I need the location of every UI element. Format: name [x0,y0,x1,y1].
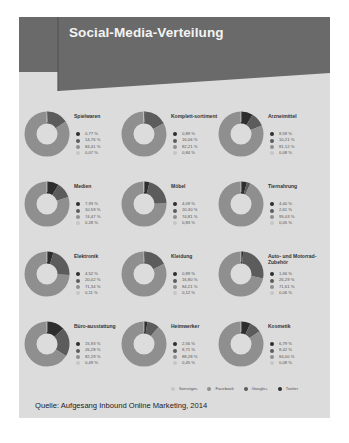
chart-legend: SonstigesFacebookGoogle+Twitter [171,386,298,391]
value-list: 4,52 %20,02 %71,34 %0,11 % [76,271,100,297]
series-dot-icon [270,285,274,289]
page-title: Social-Media-Verteilung [69,25,224,40]
donut-card: Spielwaren0,77 %14,76 %84,41 %0,07 % [24,111,124,181]
value-row: 0,84 % [173,150,197,156]
donut-chart [24,181,70,227]
value-label: 0,11 % [85,290,98,296]
series-dot-icon [270,139,274,143]
series-dot-icon [76,139,80,143]
series-dot-icon [270,145,274,149]
donut-card: Arzneimittel8,59 %10,21 %81,12 %0,08 % [218,111,318,181]
series-dot-icon [270,272,274,276]
series-dot-icon [76,202,80,206]
value-row: 0,12 % [173,290,197,296]
donut-card: Kleidung0,89 %16,80 %84,21 %0,12 % [121,251,221,321]
series-dot-icon [76,279,80,283]
legend-item: Google+ [244,386,268,391]
value-list: 1,66 %26,29 %71,61 %0,06 % [270,271,294,297]
series-dot-icon [270,215,274,219]
value-label: 0,05 % [279,220,292,226]
series-dot-icon [76,361,80,365]
donut-chart [121,321,167,367]
value-row: 0,49 % [76,360,100,366]
value-list: 7,93 %10,59 %74,47 %0,28 % [76,201,100,227]
value-list: 0,89 %16,06 %82,21 %0,84 % [173,131,197,157]
value-list: 2,56 %8,71 %88,28 %0,45 % [173,341,197,367]
donut-chart [24,111,70,157]
series-dot-icon [173,342,177,346]
donut-card: Möbel4,09 %20,30 %74,81 %0,83 % [121,181,221,251]
value-list: 6,79 %8,42 %84,00 %0,08 % [270,341,294,367]
value-label: 0,08 % [279,150,292,156]
value-row: 0,07 % [76,150,100,156]
source-caption: Quelle: Aufgesang Inbound Online Marketi… [35,401,207,410]
legend-item: Facebook [207,386,233,391]
donut-chart [24,321,70,367]
series-dot-icon [270,151,274,155]
value-label: 0,06 % [279,290,292,296]
donut-card: Komplett-sortiment0,89 %16,06 %82,21 %0,… [121,111,221,181]
value-list: 0,77 %14,76 %84,41 %0,07 % [76,131,100,157]
legend-dot-icon [244,387,248,391]
value-row: 0,11 % [76,290,100,296]
donut-card: Kosmetik6,79 %8,42 %84,00 %0,08 % [218,321,318,391]
series-dot-icon [173,349,177,353]
donut-chart [218,111,264,157]
donut-chart [218,321,264,367]
series-dot-icon [76,349,80,353]
series-dot-icon [270,349,274,353]
series-dot-icon [173,361,177,365]
category-label: Arzneimittel [268,113,328,119]
legend-item: Twitter [278,386,298,391]
category-label: Kosmetik [268,323,328,329]
donut-card: Tiernahrung4,40 %2,61 %95,03 %0,05 % [218,181,318,251]
series-dot-icon [76,151,80,155]
value-label: 0,49 % [85,360,98,366]
series-dot-icon [173,279,177,283]
legend-label: Facebook [215,386,233,391]
donut-chart [121,111,167,157]
donut-card: Elektronik4,52 %20,02 %71,34 %0,11 % [24,251,124,321]
value-row: 0,08 % [270,150,294,156]
value-label: 0,83 % [182,220,195,226]
donut-chart [121,251,167,297]
value-list: 15,93 %26,28 %82,29 %0,49 % [76,341,100,367]
value-row: 0,83 % [173,220,197,226]
series-dot-icon [76,355,80,359]
value-label: 0,08 % [279,360,292,366]
value-list: 4,40 %2,61 %95,03 %0,05 % [270,201,294,227]
series-dot-icon [270,202,274,206]
series-dot-icon [173,151,177,155]
series-dot-icon [270,291,274,295]
value-label: 0,07 % [85,150,98,156]
series-dot-icon [173,355,177,359]
value-list: 8,59 %10,21 %81,12 %0,08 % [270,131,294,157]
legend-dot-icon [171,387,175,391]
series-dot-icon [76,145,80,149]
series-dot-icon [76,291,80,295]
donut-chart [218,251,264,297]
series-dot-icon [173,132,177,136]
value-row: 0,06 % [270,290,294,296]
donut-chart [121,181,167,227]
series-dot-icon [270,279,274,283]
series-dot-icon [173,221,177,225]
category-label: Tiernahrung [268,183,328,189]
value-label: 0,28 % [85,220,98,226]
legend-dot-icon [207,387,211,391]
series-dot-icon [76,272,80,276]
donut-chart [218,181,264,227]
series-dot-icon [270,221,274,225]
legend-dot-icon [278,387,282,391]
donut-card: Büro-ausstattung15,93 %26,28 %82,29 %0,4… [24,321,124,391]
value-row: 0,05 % [270,220,294,226]
series-dot-icon [76,285,80,289]
donut-chart [24,251,70,297]
value-list: 4,09 %20,30 %74,81 %0,83 % [173,201,197,227]
series-dot-icon [270,355,274,359]
donut-card: Auto- und Motorrad-Zubehör1,66 %26,29 %7… [218,251,318,321]
infographic-panel: Social-Media-Verteilung Spielwaren0,77 %… [19,17,330,418]
donut-card: Heimwerker2,56 %8,71 %88,28 %0,45 % [121,321,221,391]
series-dot-icon [76,342,80,346]
donut-card: Medien7,93 %10,59 %74,47 %0,28 % [24,181,124,251]
